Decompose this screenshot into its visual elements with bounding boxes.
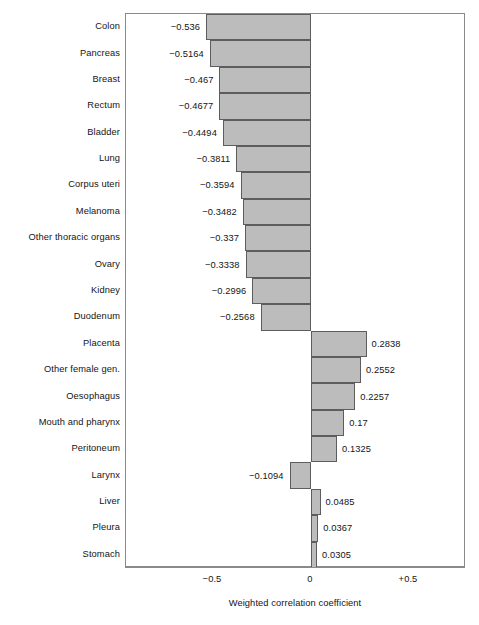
bar bbox=[243, 199, 311, 225]
bar bbox=[261, 304, 311, 330]
category-label: Other female gen. bbox=[0, 364, 120, 374]
x-tick-label: −0.5 bbox=[182, 574, 242, 585]
bar-value-label: −0.536 bbox=[171, 22, 200, 32]
bar-value-label: 0.17 bbox=[349, 418, 368, 428]
bar-value-label: 0.0367 bbox=[323, 523, 352, 533]
bar bbox=[311, 489, 321, 515]
category-label: Placenta bbox=[0, 338, 120, 348]
bar bbox=[311, 410, 344, 436]
x-axis-title: Weighted correlation coefficient bbox=[125, 598, 465, 609]
bar-value-label: −0.4677 bbox=[179, 101, 214, 111]
bar bbox=[246, 251, 311, 277]
bar-value-label: −0.337 bbox=[210, 233, 239, 243]
category-label: Lung bbox=[0, 153, 120, 163]
x-tick-label: 0 bbox=[280, 574, 340, 585]
bar bbox=[311, 383, 355, 409]
bar-value-label: −0.3482 bbox=[202, 207, 237, 217]
bar bbox=[252, 278, 311, 304]
category-label: Duodenum bbox=[0, 311, 120, 321]
bar-value-label: −0.2568 bbox=[220, 312, 255, 322]
bar bbox=[311, 515, 318, 541]
bar bbox=[219, 93, 311, 119]
category-label: Other thoracic organs bbox=[0, 232, 120, 242]
category-label: Liver bbox=[0, 496, 120, 506]
bar-value-label: 0.0305 bbox=[322, 550, 351, 560]
bar bbox=[206, 14, 311, 40]
category-label: Oesophagus bbox=[0, 391, 120, 401]
bar bbox=[290, 462, 311, 488]
category-label: Bladder bbox=[0, 127, 120, 137]
category-axis-labels: ColonPancreasBreastRectumBladderLungCorp… bbox=[0, 13, 120, 567]
x-tick-label: +0.5 bbox=[378, 574, 438, 585]
category-label: Breast bbox=[0, 74, 120, 84]
bar-value-label: −0.3338 bbox=[205, 260, 240, 270]
bar-value-label: −0.467 bbox=[184, 75, 213, 85]
bar-value-label: −0.4494 bbox=[182, 128, 217, 138]
category-label: Rectum bbox=[0, 100, 120, 110]
bar-value-label: −0.5164 bbox=[169, 49, 204, 59]
bar-value-label: 0.2257 bbox=[360, 392, 389, 402]
bar bbox=[219, 67, 311, 93]
bar bbox=[311, 542, 317, 568]
bar bbox=[245, 225, 311, 251]
bar bbox=[241, 172, 311, 198]
category-label: Peritoneum bbox=[0, 443, 120, 453]
bar bbox=[311, 331, 367, 357]
bar bbox=[311, 436, 337, 462]
bar-value-label: −0.2996 bbox=[212, 286, 247, 296]
x-axis-line bbox=[125, 567, 465, 568]
bar bbox=[210, 40, 311, 66]
bar-value-label: −0.3594 bbox=[200, 180, 235, 190]
bar-value-label: −0.1094 bbox=[249, 471, 284, 481]
category-label: Stomach bbox=[0, 549, 120, 559]
category-label: Pancreas bbox=[0, 48, 120, 58]
bars-container: −0.536−0.5164−0.467−0.4677−0.4494−0.3811… bbox=[126, 14, 464, 566]
plot-area: −0.536−0.5164−0.467−0.4677−0.4494−0.3811… bbox=[125, 13, 465, 567]
bar bbox=[223, 120, 311, 146]
bar bbox=[311, 357, 361, 383]
bar bbox=[236, 146, 311, 172]
category-label: Corpus uteri bbox=[0, 179, 120, 189]
category-label: Colon bbox=[0, 21, 120, 31]
bar-value-label: 0.0485 bbox=[326, 497, 355, 507]
bar-value-label: 0.2838 bbox=[372, 339, 401, 349]
category-label: Ovary bbox=[0, 259, 120, 269]
weighted-correlation-bar-chart: ColonPancreasBreastRectumBladderLungCorp… bbox=[0, 0, 479, 625]
bar-value-label: 0.1325 bbox=[342, 444, 371, 454]
category-label: Pleura bbox=[0, 522, 120, 532]
bar-value-label: 0.2552 bbox=[366, 365, 395, 375]
category-label: Larynx bbox=[0, 470, 120, 480]
category-label: Melanoma bbox=[0, 206, 120, 216]
category-label: Mouth and pharynx bbox=[0, 417, 120, 427]
bar-value-label: −0.3811 bbox=[196, 154, 230, 164]
category-label: Kidney bbox=[0, 285, 120, 295]
